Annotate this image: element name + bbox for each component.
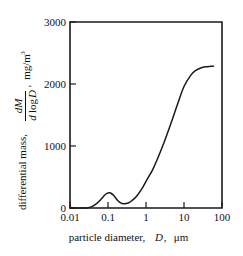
x-axis-title-prefix: particle diameter, <box>69 231 146 243</box>
x-tick-label-0.1: 0.1 <box>101 211 115 223</box>
y-tick-label-1000: 1000 <box>44 140 67 152</box>
x-axis-title-symbol: D <box>154 231 163 243</box>
y-axis-title-denominator-d: d <box>26 115 38 121</box>
x-tick-label-100: 100 <box>214 211 231 223</box>
x-tick-label-0.01: 0.01 <box>60 211 79 223</box>
y-axis-title-unit-exponent: 3 <box>19 51 27 55</box>
x-tick-label-1: 1 <box>143 211 149 223</box>
y-axis-title-prefix: differential mass, <box>16 134 28 210</box>
y-axis-title-denominator-D: D <box>26 90 38 99</box>
y-axis-title-numerator: dM <box>12 98 24 114</box>
chart-background <box>0 0 243 256</box>
y-axis-title-unit: mg/m <box>20 54 32 80</box>
y-tick-label-2000: 2000 <box>44 78 67 90</box>
chart-figure: 0 1000 2000 3000 0.01 0.1 1 10 100 parti… <box>0 0 243 256</box>
differential-mass-distribution-chart: 0 1000 2000 3000 0.01 0.1 1 10 100 parti… <box>0 0 243 256</box>
y-axis-title-denominator-log: log <box>26 98 38 113</box>
y-axis-title-comma: , <box>20 84 32 87</box>
y-tick-label-3000: 3000 <box>44 16 67 28</box>
x-axis-title-comma: , <box>164 231 167 243</box>
x-tick-label-10: 10 <box>179 211 191 223</box>
x-axis-title-unit: μm <box>174 231 189 243</box>
